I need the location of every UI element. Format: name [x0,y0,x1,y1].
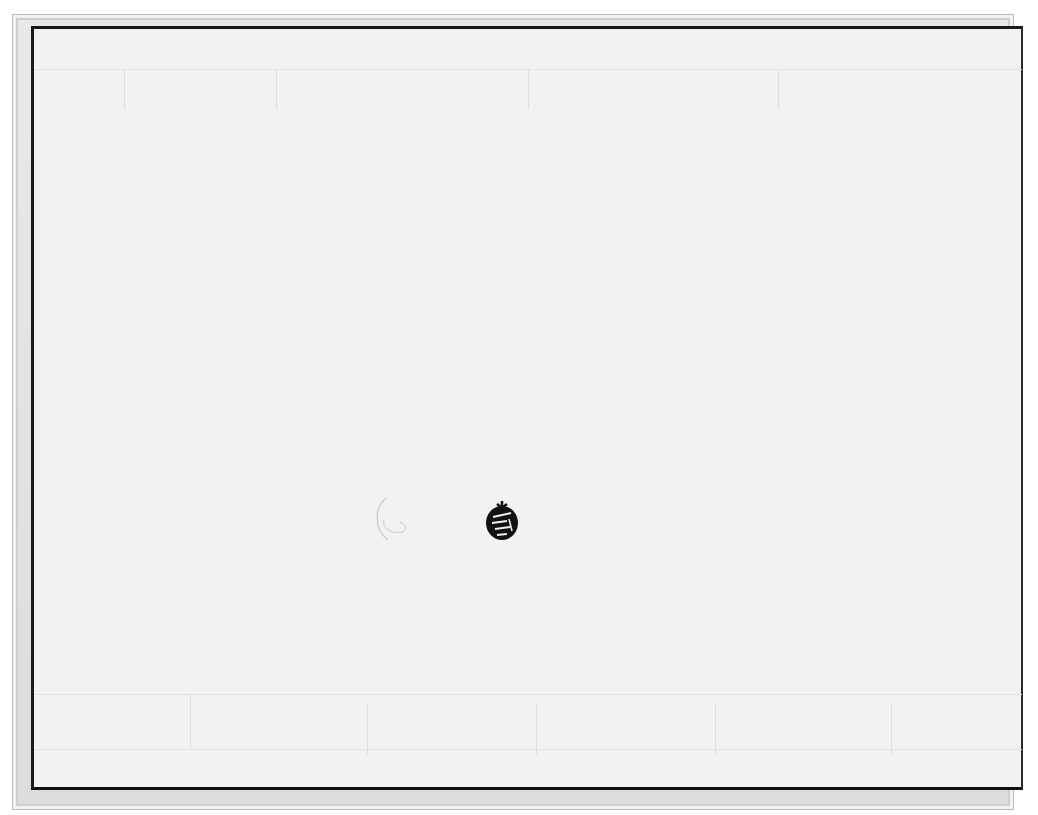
seam [891,704,892,754]
seam [34,694,1022,695]
seam [528,69,529,109]
seam [715,704,716,754]
seam [778,69,779,109]
blank-panel [31,26,1023,790]
seam [190,694,191,749]
seam [367,704,368,754]
seam [34,749,1022,750]
ornamental-emblem-icon [483,499,521,543]
faint-circle-mark-icon [372,488,432,548]
seam [536,704,537,754]
seam [276,69,277,109]
seam [124,69,125,109]
seam [34,69,1022,70]
